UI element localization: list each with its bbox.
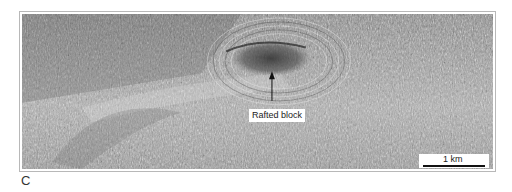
- seismic-texture: [22, 14, 493, 169]
- scale-bar-label: 1 km: [443, 154, 463, 164]
- figure-frame: Rafted block 1 km: [19, 11, 496, 172]
- rafted-block-label: Rafted block: [249, 109, 305, 122]
- scale-bar: 1 km: [419, 154, 489, 168]
- panel-label: C: [21, 173, 30, 188]
- seismic-image: Rafted block 1 km: [22, 14, 493, 169]
- scale-bar-line: [423, 165, 485, 167]
